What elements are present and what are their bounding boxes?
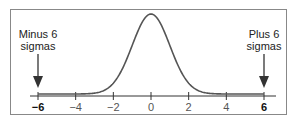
x-tick-label: −6 (28, 101, 48, 113)
x-tick-label: 6 (254, 101, 274, 113)
x-tick-label: −4 (66, 101, 86, 113)
x-tick-label: −2 (103, 101, 123, 113)
plus-6-line2: sigmas (242, 40, 286, 52)
x-tick-label: 2 (179, 101, 199, 113)
x-tick-label: 4 (216, 101, 236, 113)
minus-6-sigmas-label: Minus 6 sigmas (14, 28, 62, 52)
chart-frame (11, 10, 287, 115)
x-tick-label: 0 (141, 101, 161, 113)
plus-6-line1: Plus 6 (242, 28, 286, 40)
minus-6-line1: Minus 6 (14, 28, 62, 40)
plus-6-sigmas-label: Plus 6 sigmas (242, 28, 286, 52)
minus-6-line2: sigmas (14, 40, 62, 52)
